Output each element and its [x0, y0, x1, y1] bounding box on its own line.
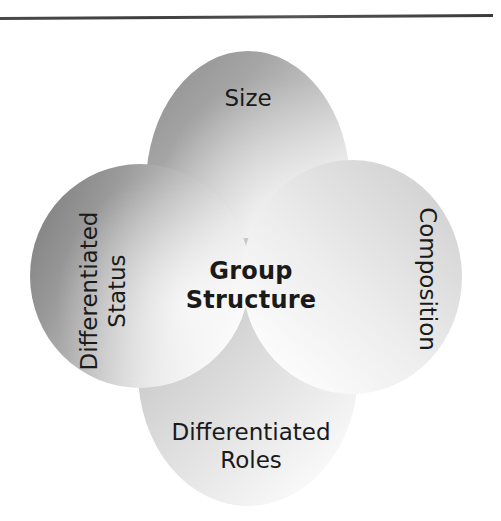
- petal-diagram-svg: [0, 0, 501, 521]
- figure-page: Size Composition Differentiated Roles Di…: [0, 0, 501, 521]
- group-structure-diagram: Size Composition Differentiated Roles Di…: [0, 0, 501, 521]
- petal-right: [242, 160, 462, 394]
- petal-left: [30, 164, 250, 388]
